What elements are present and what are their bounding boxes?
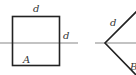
wedge-lower-label: B	[129, 61, 136, 72]
square-area-label: A	[22, 54, 30, 65]
square-top-label: d	[33, 3, 39, 14]
wedge-upper-label: d	[110, 17, 116, 28]
square-figure	[13, 17, 60, 66]
square-right-label: d	[63, 30, 69, 41]
diagram-canvas: d d A d B	[0, 0, 136, 75]
